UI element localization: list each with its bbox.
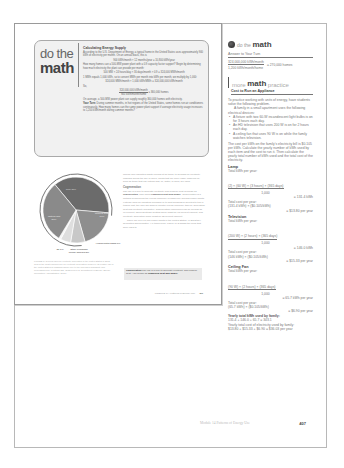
problem-text: A family in a small apartment uses the f… (228, 106, 313, 114)
do-the-math-box: do the math Calculating Energy Supply Ac… (34, 40, 209, 157)
intro-text: To practice working with units of energy… (228, 98, 313, 106)
footer-module: Module 14 Patterns of Energy Use (200, 421, 250, 426)
answer-heading: Answer to Your Turn (228, 52, 313, 58)
divider (78, 43, 79, 87)
p2-term: cogeneration (123, 193, 138, 196)
question-text: How many homes can a 500-MW power plant … (83, 63, 205, 69)
answer-equation: 324,000,000 kWh/month 1,200 kWh/month/ho… (228, 60, 313, 70)
equation-2: 500 MW × 24 hours/day × 30 days/month × … (83, 71, 205, 74)
inset-page-number: 407 (199, 292, 203, 295)
mmp-title: Cost to Run an Appliance (231, 89, 313, 95)
device-item: A fixture with two 60-W incandescent lig… (228, 115, 313, 123)
fuel-pie-chart: Coal 37% Nuclear fuels 19% Natural gas 3… (34, 172, 124, 258)
answer-fraction: 324,000,000 kWh/month 1,200 kWh/month/ho… (228, 60, 264, 70)
mmp-bold: math (247, 79, 266, 88)
p2-term2: combined heat and power (151, 193, 181, 196)
coal-label: Coal 37% (64, 189, 78, 192)
fraction-result: = 360,000 homes (148, 92, 168, 95)
p2-mid: , also called (138, 193, 151, 196)
p2-end: . Cogeneration is a method of improving … (123, 193, 205, 218)
device-item: A ceiling fan that uses 90 W is on while… (228, 132, 313, 140)
kwh-numerator: (200 W) × (2 hours) × (365 days) (228, 234, 277, 240)
total-cost-equation: $13.80 + $15.33 + $6.90 = $36.03 per yea… (228, 327, 313, 331)
inset-footer-module: MODULE 14 | Patterns of Energy Use (155, 292, 195, 295)
page-footer: Module 14 Patterns of Energy Use 407 (200, 421, 306, 426)
section-lamp: Lamp Total kWh per year: (2) × (60 W) × … (228, 165, 313, 213)
math-bullet-icon (228, 41, 235, 48)
your-turn-text: During summer months, in hot regions of … (83, 102, 203, 111)
device-list: A fixture with two 60-W incandescent lig… (228, 115, 313, 140)
answer-result: = 270,000 homes (267, 63, 293, 67)
figure-caption: FIGURE 14.2 Fuels used for electricity g… (34, 260, 114, 275)
cogeneration-subhead: Cogeneration (123, 186, 205, 190)
oil-label: Oil 1% (56, 249, 64, 252)
section-television: Television Total kWh per year: (200 W) ×… (228, 215, 313, 263)
fraction: 324,000,000 kWh/month 900 kWh/month/home (119, 89, 147, 96)
task-text: The cost per kWh on the family's electri… (228, 142, 313, 163)
page-number: 407 (299, 421, 306, 426)
inset-body-text: include well-insulated plants running at… (123, 173, 205, 229)
mmp-light1: more (232, 82, 246, 88)
inset-footer: MODULE 14 | Patterns of Energy Use407 (143, 292, 203, 295)
title-line2: math (40, 60, 78, 75)
conversion-note: 1 MWh equals 1,000 kWh, so to convert MW… (83, 76, 205, 79)
fraction-equation: 324,000,000 kWh/month 900 kWh/month/home… (83, 89, 205, 96)
header-bold: math (252, 40, 271, 49)
hydro-label: Hydroelectric dams 7% (94, 243, 122, 246)
p2-start: The use of a fuel to generate electricit… (123, 190, 197, 193)
answer-denominator: 1,200 kWh/month/home (228, 65, 264, 70)
paragraph-2: The use of a fuel to generate electricit… (123, 190, 205, 219)
denominator: 900 kWh/month/home (121, 93, 146, 96)
intro-text: According to the U.S. Department of Ener… (83, 51, 205, 57)
do-the-math-title: do the math (40, 47, 78, 75)
more-math-practice-header: more math practice (228, 77, 313, 88)
box-heading: Calculating Energy Supply (83, 47, 205, 50)
other-renewable-label: Other renewable energy sources 5% (68, 249, 90, 255)
kwh-numerator: (2) × (60 W) × (3 hours) × (365 days) (228, 184, 284, 190)
equation-3: 324,000 MWh/month × 1,000 kWh/MWh = 324,… (83, 80, 205, 83)
teacher-right-column: do the math Answer to Your Turn 324,000,… (228, 40, 313, 331)
practice-intro: To practice working with units of energy… (228, 98, 313, 115)
do-the-math-header: do the math (228, 40, 313, 49)
kwh-numerator: (90 W) × (2 hours) × (365 days) (228, 285, 276, 291)
natural-gas-label: Natural gas 30% (46, 216, 62, 222)
nuclear-label: Nuclear fuels 19% (94, 213, 110, 219)
cost-result: = $13.80 per year (228, 209, 313, 213)
glossary-box: Cogeneration The use of a fuel to genera… (124, 268, 202, 280)
equation-1: 900 kWh/month × 12 months/year = 10,800 … (83, 59, 205, 62)
cost-result: = $15.33 per year (228, 259, 313, 263)
header-light: do the (237, 42, 251, 48)
conclusion-text: On average, a 500-MW power plant can sup… (83, 98, 205, 101)
paragraph-3: There are over 17,000 power plants in th… (123, 219, 205, 230)
so-text: So, (83, 85, 205, 88)
device-item: An HD television that uses 200 W is on f… (228, 123, 313, 131)
do-the-math-content: Calculating Energy Supply According to t… (83, 47, 205, 113)
glossary-alt-term: combined heat and power. (148, 272, 178, 275)
section-ceiling-fan: Ceiling Fan Total kWh per year: (90 W) ×… (228, 265, 313, 313)
paragraph-1: include well-insulated plants running at… (123, 173, 205, 184)
your-turn: Your Turn: During summer months, in hot … (83, 102, 205, 112)
mmp-light2: practice (268, 82, 289, 88)
